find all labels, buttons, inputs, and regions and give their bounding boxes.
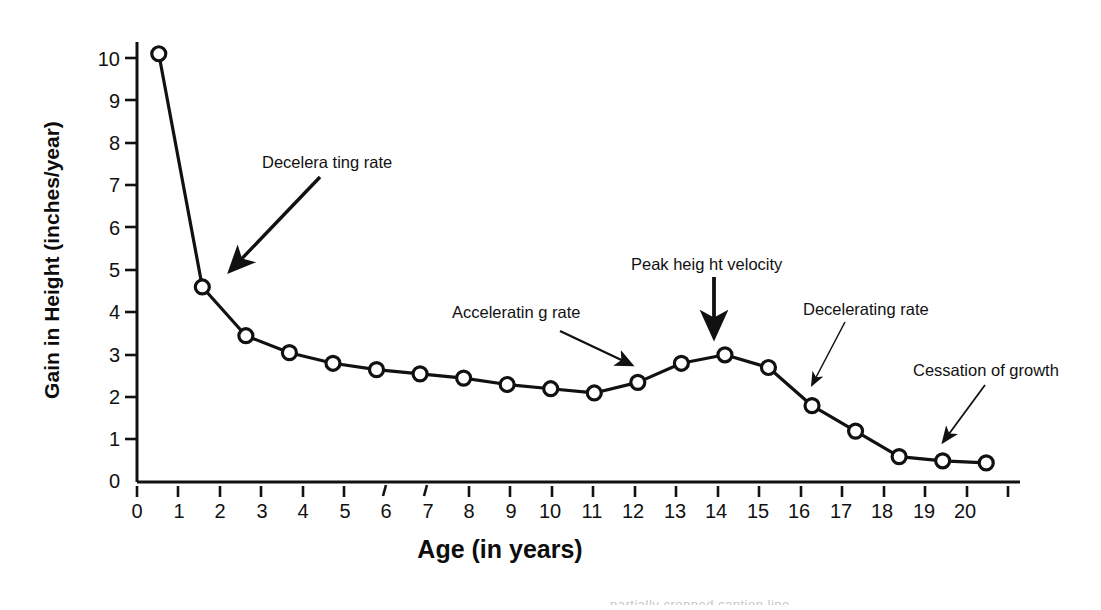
series-markers	[152, 47, 993, 470]
data-point-marker	[544, 382, 558, 396]
arrow-cessation-of-growth	[943, 385, 985, 442]
series-line	[159, 54, 986, 463]
data-point-marker	[892, 450, 906, 464]
data-point-marker	[849, 424, 863, 438]
data-point-marker	[500, 377, 514, 391]
data-point-marker	[718, 348, 732, 362]
data-point-marker	[936, 454, 950, 468]
data-point-marker	[152, 47, 166, 61]
x-axis-ticks	[137, 485, 1008, 497]
data-point-marker	[979, 456, 993, 470]
arrow-decelerating-rate-late	[812, 322, 845, 385]
annotation-arrows	[230, 177, 985, 442]
axis-spines	[137, 42, 1020, 482]
data-point-marker	[761, 361, 775, 375]
data-point-marker	[457, 371, 471, 385]
data-point-marker	[326, 356, 340, 370]
data-point-marker	[631, 375, 645, 389]
cropped-caption: partially cropped caption line	[610, 597, 1080, 605]
data-point-marker	[195, 280, 209, 294]
data-point-marker	[805, 399, 819, 413]
arrow-decelerating-rate-early	[230, 177, 320, 271]
plot-area	[0, 0, 1101, 610]
data-point-marker	[239, 329, 253, 343]
y-axis-ticks	[125, 58, 137, 439]
growth-velocity-chart: Gain in Height (inches/year) Age (in yea…	[0, 0, 1101, 610]
arrow-accelerating-rate	[560, 331, 632, 365]
data-point-marker	[413, 367, 427, 381]
data-point-marker	[282, 346, 296, 360]
data-point-marker	[674, 356, 688, 370]
data-point-marker	[587, 386, 601, 400]
data-point-marker	[370, 363, 384, 377]
